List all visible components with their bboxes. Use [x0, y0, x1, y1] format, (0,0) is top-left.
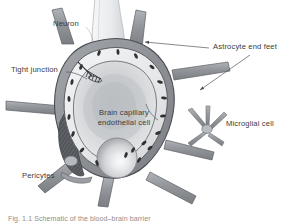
label-pericytes: Pericytes — [22, 171, 55, 180]
endothelial-nucleus — [97, 138, 137, 178]
figure-root: Neuron Tight junction Astrocyte end feet… — [0, 0, 294, 223]
label-endothelial-line1: Brain capillary — [99, 108, 149, 117]
label-astrocyte-end-feet: Astrocyte end feet — [213, 42, 277, 51]
label-endothelial-cell: Brain capillary endothelial cell — [88, 108, 160, 127]
leader-astrocyte-upper — [145, 42, 209, 48]
label-endothelial-line2: endothelial cell — [98, 118, 151, 127]
label-neuron: Neuron — [53, 19, 79, 28]
figure-caption: Fig. 1.1 Schematic of the blood–brain ba… — [8, 215, 151, 223]
microglial-cell — [188, 106, 227, 146]
label-microglial-cell: Microglial cell — [226, 119, 274, 128]
label-tight-junction: Tight junction — [11, 65, 58, 74]
